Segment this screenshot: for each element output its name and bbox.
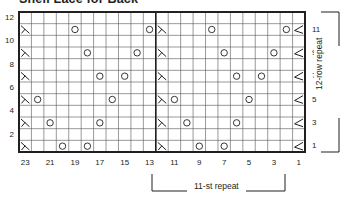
decrease-left-icon bbox=[158, 142, 166, 150]
yarn-over-icon bbox=[84, 143, 90, 149]
stitch-label: 21 bbox=[40, 158, 60, 167]
row-label-left: 4 bbox=[2, 106, 14, 115]
yarn-over-icon bbox=[196, 143, 202, 149]
yarn-over-icon bbox=[271, 50, 277, 56]
row-label-left: 2 bbox=[2, 130, 14, 139]
stitch-label: 1 bbox=[289, 158, 309, 167]
decrease-right-icon bbox=[295, 119, 303, 127]
yarn-over-icon bbox=[97, 120, 103, 126]
stitch-label: 11 bbox=[164, 158, 184, 167]
yarn-over-icon bbox=[233, 73, 239, 79]
decrease-left-icon bbox=[21, 142, 29, 150]
decrease-left-icon bbox=[21, 49, 29, 57]
row-label-left: 12 bbox=[2, 13, 14, 22]
decrease-left-icon bbox=[21, 119, 29, 127]
yarn-over-icon bbox=[84, 50, 90, 56]
stitch-repeat-label: 11-st repeat bbox=[191, 181, 242, 191]
yarn-over-icon bbox=[283, 26, 289, 32]
stitch-label: 19 bbox=[65, 158, 85, 167]
stitch-label: 15 bbox=[115, 158, 135, 167]
decrease-right-icon bbox=[295, 72, 303, 80]
row-label-right: 3 bbox=[312, 118, 316, 127]
stitch-label: 3 bbox=[264, 158, 284, 167]
row-label-left: 8 bbox=[2, 60, 14, 69]
row-label-right: 5 bbox=[312, 95, 316, 104]
decrease-left-icon bbox=[21, 72, 29, 80]
yarn-over-icon bbox=[258, 73, 264, 79]
yarn-over-icon bbox=[59, 143, 65, 149]
yarn-over-icon bbox=[72, 26, 78, 32]
row-label-right: 11 bbox=[312, 25, 320, 34]
yarn-over-icon bbox=[209, 26, 215, 32]
stitch-repeat-bracket-left bbox=[152, 174, 187, 191]
decrease-left-icon bbox=[158, 26, 166, 34]
yarn-over-icon bbox=[221, 50, 227, 56]
yarn-over-icon bbox=[233, 120, 239, 126]
decrease-right-icon bbox=[295, 142, 303, 150]
decrease-left-icon bbox=[21, 96, 29, 104]
decrease-left-icon bbox=[158, 49, 166, 57]
knitting-chart bbox=[0, 0, 349, 203]
yarn-over-icon bbox=[184, 120, 190, 126]
row-label-right: 1 bbox=[312, 141, 316, 150]
decrease-right-icon bbox=[295, 26, 303, 34]
yarn-over-icon bbox=[47, 120, 53, 126]
yarn-over-icon bbox=[109, 96, 115, 102]
yarn-over-icon bbox=[97, 73, 103, 79]
row-repeat-bracket-bottom bbox=[321, 118, 339, 152]
yarn-over-icon bbox=[121, 73, 127, 79]
decrease-left-icon bbox=[158, 119, 166, 127]
yarn-over-icon bbox=[134, 50, 140, 56]
decrease-left-icon bbox=[21, 26, 29, 34]
yarn-over-icon bbox=[34, 96, 40, 102]
decrease-left-icon bbox=[158, 72, 166, 80]
stitch-repeat-bracket-right bbox=[246, 174, 285, 191]
stitch-label: 5 bbox=[239, 158, 259, 167]
row-repeat-label: 12-row repeat bbox=[314, 35, 324, 93]
decrease-right-icon bbox=[295, 96, 303, 104]
yarn-over-icon bbox=[221, 143, 227, 149]
stitch-label: 17 bbox=[90, 158, 110, 167]
stitch-label: 23 bbox=[15, 158, 35, 167]
decrease-right-icon bbox=[295, 49, 303, 57]
decrease-left-icon bbox=[158, 96, 166, 104]
stitch-label: 7 bbox=[214, 158, 234, 167]
stitch-label: 13 bbox=[140, 158, 160, 167]
stitch-label: 9 bbox=[189, 158, 209, 167]
row-label-left: 10 bbox=[2, 36, 14, 45]
row-label-left: 6 bbox=[2, 83, 14, 92]
yarn-over-icon bbox=[171, 96, 177, 102]
yarn-over-icon bbox=[146, 26, 152, 32]
yarn-over-icon bbox=[246, 96, 252, 102]
